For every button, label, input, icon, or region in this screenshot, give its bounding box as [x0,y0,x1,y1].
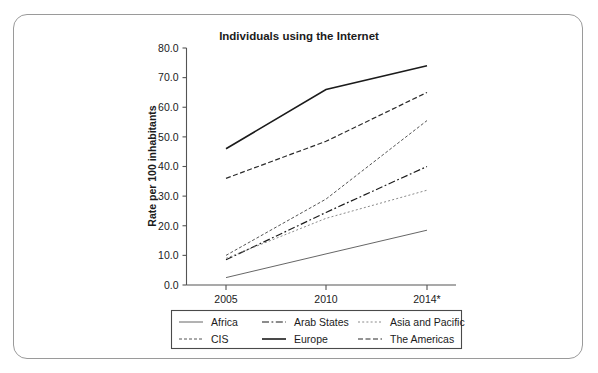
y-tick-label: 60.0 [158,101,179,113]
x-tick-label: 2010 [314,293,338,305]
legend-label: Europe [294,333,328,345]
y-axis-label: Rate per 100 inhabitants [146,105,158,227]
line-chart: Individuals using the Internet Rate per … [0,0,598,373]
chart-figure: Individuals using the Internet Rate per … [0,0,598,373]
y-tick-label: 30.0 [158,190,179,202]
legend-label: The Americas [390,333,454,345]
y-tick-label: 50.0 [158,131,179,143]
legend-label: CIS [211,333,229,345]
series-line-europe [226,66,427,149]
series-line-africa [226,230,427,277]
y-tick-label: 80.0 [158,42,179,54]
chart-title: Individuals using the Internet [219,30,379,42]
y-tick-label: 20.0 [158,220,179,232]
x-tick-label: 2005 [214,293,238,305]
legend-label: Africa [211,316,238,328]
series-line-the-americas [226,92,427,178]
series-lines [226,66,427,278]
y-tick-label: 10.0 [158,249,179,261]
x-tick-label: 2014* [413,293,440,305]
legend-label: Asia and Pacific [390,316,465,328]
y-axis-ticks: 0.010.020.030.040.050.060.070.080.0 [158,42,186,291]
y-tick-label: 0.0 [164,279,179,291]
y-tick-label: 40.0 [158,160,179,172]
x-axis-ticks: 200520102014* [214,285,440,305]
series-line-asia-and-pacific [226,190,427,258]
series-line-arab-states [226,167,427,260]
legend-label: Arab States [294,316,349,328]
y-tick-label: 70.0 [158,71,179,83]
